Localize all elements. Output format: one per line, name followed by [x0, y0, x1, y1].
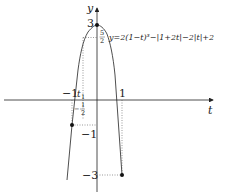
svg-text:2: 2 — [100, 37, 104, 45]
label-neg-half: − 1 2 — [74, 101, 85, 117]
svg-text:1: 1 — [81, 93, 85, 101]
function-graph: t y 3 −1 1 −1 −3 5 2 t 1 — [0, 0, 228, 195]
x-tick-1: 1 — [119, 87, 126, 100]
point-0-3 — [95, 23, 99, 27]
label-t1: t 1 — [77, 89, 85, 101]
equation-label: y=2(1−t)³−|1+2t|−2|t|+2 — [108, 33, 214, 42]
y-tick-3: 3 — [87, 17, 94, 30]
x-axis-label: t — [208, 104, 213, 117]
point-1-neg3 — [120, 173, 124, 177]
svg-text:1: 1 — [81, 101, 85, 109]
x-tick-neg1: −1 — [62, 87, 78, 100]
y-tick-neg1: −1 — [81, 128, 97, 141]
point-neg1-neg1 — [70, 123, 74, 127]
y-axis-label: y — [86, 2, 94, 15]
svg-text:5: 5 — [100, 29, 104, 37]
svg-text:2: 2 — [81, 109, 85, 117]
y-tick-neg3: −3 — [82, 169, 98, 182]
function-curve — [67, 25, 122, 180]
label-five-halves: 5 2 — [100, 29, 106, 45]
svg-text:−: − — [74, 105, 79, 113]
